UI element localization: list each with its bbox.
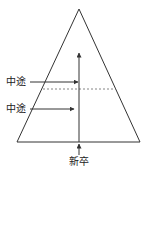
label-midcareer-lower: 中途 <box>6 104 26 114</box>
label-midcareer-upper: 中途 <box>6 77 26 87</box>
label-new-graduate: 新卒 <box>69 157 89 167</box>
